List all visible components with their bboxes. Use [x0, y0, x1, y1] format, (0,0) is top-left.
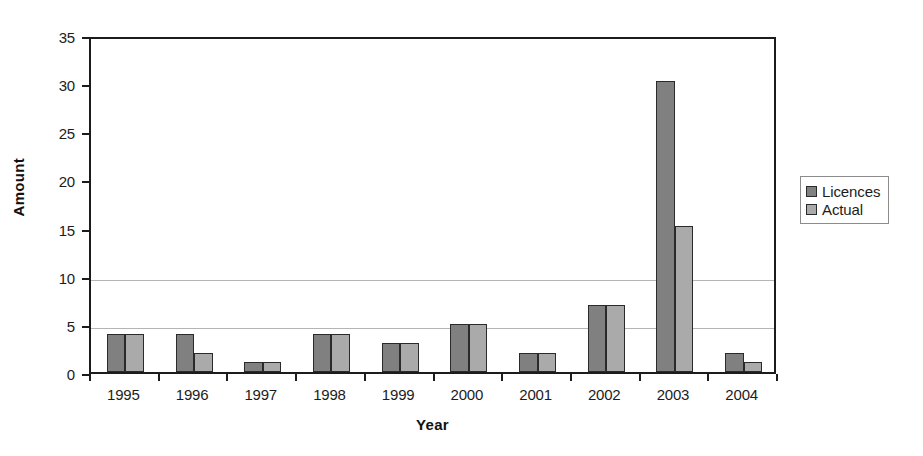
bar-actual-1995 [125, 334, 144, 373]
x-axis-tick-mark [89, 374, 91, 381]
x-axis-tick-label: 2001 [501, 386, 570, 403]
legend-swatch-icon [806, 186, 817, 197]
x-axis-tick-mark [570, 374, 572, 381]
x-axis-tick-mark [433, 374, 435, 381]
bar-actual-2000 [469, 324, 488, 372]
bar-licences-2001 [519, 353, 538, 372]
y-axis-tick-mark [82, 326, 89, 328]
legend-label: Actual [822, 201, 863, 218]
y-axis-tick-mark [82, 37, 89, 39]
x-axis-tick-mark [707, 374, 709, 381]
y-axis-tick-mark [82, 374, 89, 376]
bar-actual-2001 [538, 353, 557, 372]
bar-actual-2002 [606, 305, 625, 372]
bar-licences-1996 [176, 334, 195, 373]
y-axis-tick-label: 5 [41, 317, 75, 334]
legend-item-licences[interactable]: Licences [806, 182, 880, 200]
bar-actual-1999 [400, 343, 419, 372]
y-axis-tick-mark [82, 181, 89, 183]
x-axis-tick-label: 1997 [226, 386, 295, 403]
legend-item-actual[interactable]: Actual [806, 200, 880, 218]
x-axis-tick-label: 2000 [433, 386, 502, 403]
bar-licences-1995 [107, 334, 126, 373]
x-axis-tick-label: 1996 [158, 386, 227, 403]
y-axis-tick-label: 35 [41, 29, 75, 46]
legend-label: Licences [822, 183, 880, 200]
legend-swatch-icon [806, 204, 817, 215]
bar-actual-2003 [675, 226, 694, 372]
y-axis-tick-label: 0 [41, 366, 75, 383]
x-axis-tick-label: 1998 [295, 386, 364, 403]
y-axis-tick-mark [82, 85, 89, 87]
x-axis-tick-label: 1999 [364, 386, 433, 403]
x-axis-tick-label: 2002 [570, 386, 639, 403]
x-axis-tick-mark [158, 374, 160, 381]
bar-actual-1996 [194, 353, 213, 372]
chart-legend: LicencesActual [800, 176, 889, 224]
x-axis-tick-label: 2003 [639, 386, 708, 403]
y-axis-tick-mark [82, 278, 89, 280]
y-axis-tick-label: 30 [41, 77, 75, 94]
y-axis-title: Amount [10, 158, 34, 216]
bar-licences-2002 [588, 305, 607, 372]
x-axis-tick-mark [639, 374, 641, 381]
x-axis-tick-mark [295, 374, 297, 381]
bar-licences-1999 [382, 343, 401, 372]
y-axis-tick-label: 15 [41, 221, 75, 238]
bar-licences-2004 [725, 353, 744, 372]
y-axis-tick-label: 20 [41, 173, 75, 190]
plot-inner [91, 39, 774, 372]
x-axis-tick-label: 1995 [89, 386, 158, 403]
y-axis-tick-mark [82, 133, 89, 135]
y-axis-tick-labels: 05101520253035 [41, 37, 75, 374]
bar-actual-1998 [331, 334, 350, 373]
bar-licences-1998 [313, 334, 332, 373]
x-axis-tick-mark [776, 374, 778, 381]
y-axis-tick-label: 25 [41, 125, 75, 142]
bar-actual-2004 [744, 362, 763, 372]
x-axis-title: Year [89, 416, 776, 433]
bar-licences-2000 [450, 324, 469, 372]
x-axis-tick-mark [364, 374, 366, 381]
bar-licences-2003 [656, 81, 675, 372]
x-axis-tick-mark [501, 374, 503, 381]
y-axis-tick-mark [82, 230, 89, 232]
bar-actual-1997 [263, 362, 282, 372]
y-axis-tick-label: 10 [41, 269, 75, 286]
bar-licences-1997 [244, 362, 263, 372]
plot-area [89, 37, 776, 374]
x-axis-tick-label: 2004 [707, 386, 776, 403]
x-axis-tick-mark [226, 374, 228, 381]
chart-page: Amount 05101520253035 Year LicencesActua… [0, 0, 923, 456]
